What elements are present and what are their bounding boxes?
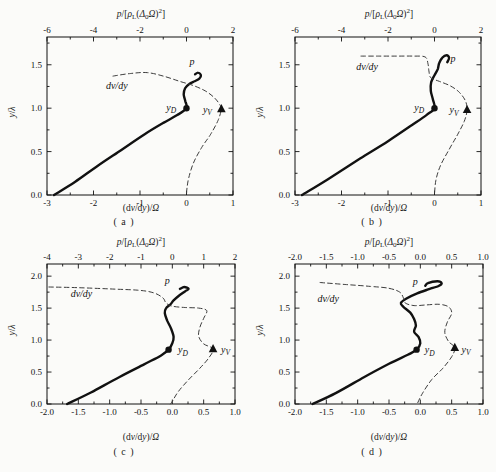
svg-text:1.5: 1.5 <box>31 303 43 313</box>
marker-yV-triangle <box>463 105 472 113</box>
series-dvdy <box>113 72 222 195</box>
axis-ticks <box>295 264 483 404</box>
left-title-y: y <box>7 113 17 117</box>
series-dvdy <box>320 283 455 405</box>
svg-text:1.5: 1.5 <box>31 60 43 70</box>
svg-text:-4: -4 <box>338 25 346 35</box>
tick-labels: -2.0-1.5-1.0-0.50.00.51.0-4-3-2-10120.00… <box>31 252 241 417</box>
svg-text:-1.5: -1.5 <box>319 407 334 417</box>
panel-d: p/[ρL(Δ0Ω)2] -2.0-1.5-1.0-0.50.00.51.0-2… <box>248 236 496 472</box>
svg-text:-6: -6 <box>291 25 299 35</box>
plot-frame <box>47 264 235 404</box>
svg-text:1.0: 1.0 <box>229 407 241 417</box>
svg-text:0.5: 0.5 <box>446 407 458 417</box>
svg-text:1.0: 1.0 <box>279 103 291 113</box>
plot-b: -3-2-101-6-4-2020.00.51.01.5pdv/dyyDyV <box>248 0 496 236</box>
series-dvdy <box>49 287 213 404</box>
svg-text:0.5: 0.5 <box>446 252 458 262</box>
svg-text:0.0: 0.0 <box>279 190 291 200</box>
left-title-y: y <box>255 331 265 335</box>
svg-text:0.0: 0.0 <box>31 190 43 200</box>
annotation-yV: yV <box>202 104 213 118</box>
svg-text:-2: -2 <box>136 25 144 35</box>
svg-text:1: 1 <box>201 252 206 262</box>
svg-text:0.0: 0.0 <box>31 399 43 409</box>
marker-yV-triangle <box>217 104 226 112</box>
svg-text:0.0: 0.0 <box>279 399 291 409</box>
annotation-p: p <box>164 275 170 286</box>
svg-text:-1.0: -1.0 <box>103 407 118 417</box>
bottom-title-omega: Ω <box>152 432 159 442</box>
svg-text:-1: -1 <box>137 252 145 262</box>
bottom-axis-title: (dv/dy)/Ω <box>295 203 483 213</box>
svg-text:2.0: 2.0 <box>279 271 291 281</box>
marker-yD-circle <box>183 105 189 111</box>
annotation-yV: yV <box>461 344 472 358</box>
bottom-title-omega: Ω <box>152 203 159 213</box>
svg-text:-1.5: -1.5 <box>319 252 334 262</box>
svg-text:-2: -2 <box>106 252 114 262</box>
annotation-p: p <box>412 276 418 287</box>
svg-text:-0.5: -0.5 <box>134 407 149 417</box>
svg-text:0: 0 <box>170 252 175 262</box>
plot-frame <box>295 264 483 404</box>
axis-ticks <box>47 264 235 404</box>
annotation-dv/dy: dv/dy <box>356 61 378 72</box>
svg-text:-2.0: -2.0 <box>288 252 303 262</box>
annotation-dv/dy: dv/dy <box>317 293 339 304</box>
bottom-title-omega: Ω <box>400 432 407 442</box>
bottom-title-b1: (d <box>371 203 379 213</box>
bottom-title-omega: Ω <box>400 203 407 213</box>
panel-a: p/[ρL(Δ0Ω)2] -3-2-101-6-4-2020.00.51.01.… <box>0 0 248 236</box>
bottom-axis-title: (dv/dy)/Ω <box>47 203 235 213</box>
svg-text:2.0: 2.0 <box>31 271 43 281</box>
series-p <box>67 287 189 404</box>
svg-text:-2: -2 <box>384 25 392 35</box>
svg-text:0.0: 0.0 <box>167 407 179 417</box>
marker-yD-circle <box>165 346 171 352</box>
left-title-y: y <box>7 331 17 335</box>
plot-frame <box>47 37 233 195</box>
annotation-yD: yD <box>413 102 424 116</box>
annotation-yD: yD <box>424 344 435 358</box>
panel-caption: ( c ) <box>0 446 248 457</box>
svg-text:0.0: 0.0 <box>415 252 427 262</box>
annotation-p: p <box>450 53 456 64</box>
annotation-yV: yV <box>220 344 231 358</box>
panel-caption: ( a ) <box>0 216 248 227</box>
svg-text:-4: -4 <box>43 252 51 262</box>
left-title-slash: / <box>7 329 17 332</box>
left-axis-title: y/λ <box>255 82 265 142</box>
svg-text:-3: -3 <box>75 252 83 262</box>
svg-text:0: 0 <box>184 25 189 35</box>
bottom-axis-title: (dv/dy)/Ω <box>47 432 235 442</box>
svg-text:2: 2 <box>233 252 238 262</box>
left-title-slash: / <box>255 329 265 332</box>
svg-text:1.0: 1.0 <box>31 103 43 113</box>
svg-text:0.5: 0.5 <box>31 147 43 157</box>
svg-text:1.0: 1.0 <box>477 407 489 417</box>
left-axis-title: y/λ <box>7 300 17 360</box>
svg-text:-2.0: -2.0 <box>40 407 55 417</box>
series-dvdy <box>361 56 467 195</box>
marker-yD-circle <box>431 105 437 111</box>
left-title-lambda: λ <box>255 107 265 111</box>
annotation-yD: yD <box>165 102 176 116</box>
panel-c: p/[ρL(Δ0Ω)2] -2.0-1.5-1.0-0.50.00.51.0-4… <box>0 236 248 472</box>
svg-text:1.0: 1.0 <box>279 335 291 345</box>
panel-caption: ( d ) <box>248 446 496 457</box>
svg-text:0.0: 0.0 <box>415 407 427 417</box>
annotation-yV: yV <box>449 104 460 118</box>
series-p <box>302 55 449 195</box>
marker-yD-circle <box>413 346 419 352</box>
left-title-lambda: λ <box>7 107 17 111</box>
plot-a: -3-2-101-6-4-2020.00.51.01.5pdv/dyyDyV <box>0 0 248 236</box>
annotation-dv/dy: dv/dy <box>106 80 128 91</box>
svg-text:1.5: 1.5 <box>279 303 291 313</box>
annotation-yD: yD <box>177 344 188 358</box>
marker-yV-triangle <box>209 344 218 352</box>
svg-text:0.5: 0.5 <box>31 367 43 377</box>
svg-text:1.0: 1.0 <box>31 335 43 345</box>
annotation-dv/dy: dv/dy <box>71 288 93 299</box>
svg-text:2: 2 <box>231 25 236 35</box>
